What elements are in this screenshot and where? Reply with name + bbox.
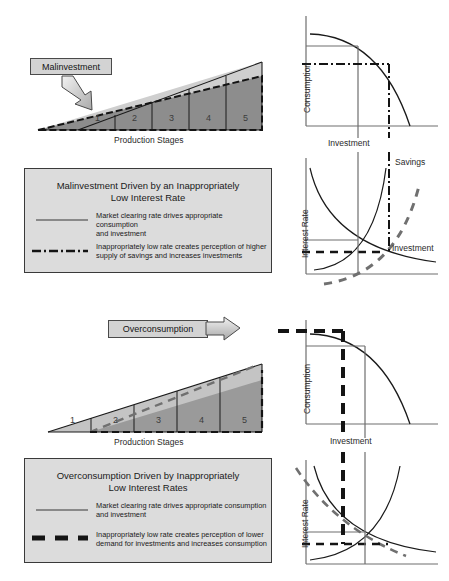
malinvestment-callout: Malinvestment (30, 58, 112, 75)
bottom-legend-entry-2: Inappropriately low rate creates percept… (96, 530, 272, 548)
bottom-stage-number-5: 5 (242, 415, 247, 425)
bottom-investment-demand-curve-solid (314, 466, 436, 552)
top-legend-swatch-dashdot (32, 247, 88, 255)
bottom-ppf-ylabel: Consumption (302, 364, 312, 414)
arrow-shape (206, 317, 240, 340)
bottom-legend-title: Overconsumption Driven by Inappropriatel… (24, 470, 272, 494)
top-legend-entry-2: Inappropriately low rate creates percept… (96, 242, 272, 260)
bottom-legend-entry-2-line1: Inappropriately low rate creates percept… (96, 530, 264, 539)
top-ppf-xlabel: Investment (328, 138, 370, 148)
bottom-legend-entry-2-line2: demand for investments and increases con… (96, 539, 267, 548)
overconsumption-callout-arrow (206, 316, 242, 342)
top-legend-entry-1-line1: Market clearing rate drives appropriate … (96, 211, 223, 229)
top-production-stages-label: Production Stages (114, 135, 183, 145)
malinvestment-callout-arrow (60, 74, 100, 116)
top-legend-entry-1-line2: and investment (96, 229, 146, 238)
production-possibility-frontier (310, 34, 410, 126)
bottom-ppf-xlabel: Investment (330, 436, 372, 446)
top-stage-number-5: 5 (243, 113, 248, 123)
investment-curve-label: Investment (392, 243, 434, 253)
bottom-loanable-funds-chart (288, 452, 443, 578)
bottom-legend-swatch-heavydash (32, 533, 88, 543)
investment-demand-curve-dashed (324, 182, 420, 284)
top-legend-entry-2-line2: supply of savings and increases investme… (96, 251, 242, 260)
bottom-stage-number-2: 2 (113, 415, 118, 425)
top-legend-entry-1: Market clearing rate drives appropriate … (96, 211, 266, 239)
top-stage-number-3: 3 (169, 113, 174, 123)
bottom-production-stages-label: Production Stages (114, 437, 183, 447)
top-ppf-ylabel: Consumption (302, 63, 312, 113)
bottom-legend-entry-1-line2: and investment (96, 510, 146, 519)
bottom-stage-number-4: 4 (199, 415, 204, 425)
bottom-stage-number-1: 1 (70, 415, 75, 425)
bottom-legend-swatch-solid (36, 506, 88, 514)
bottom-legend-title-line2: Low Interest Rates (108, 482, 187, 493)
top-legend-title-line2: Low Interest Rate (111, 192, 185, 203)
bottom-legend-entry-1-line1: Market clearing rate drives appropriate … (96, 501, 266, 510)
arrow-shape (62, 76, 92, 110)
bottom-production-possibility-frontier (310, 334, 410, 424)
bottom-stage-number-3: 3 (156, 415, 161, 425)
top-legend-swatch-solid (36, 216, 88, 224)
top-legend-title: Malinvestment Driven by an Inappropriate… (24, 180, 272, 204)
bottom-production-triangle (30, 330, 270, 440)
savings-curve-label: Savings (395, 157, 425, 167)
bottom-legend-entry-1: Market clearing rate drives appropriate … (96, 501, 268, 519)
bottom-lf-ylabel: Interest Rate (300, 499, 310, 548)
bottom-savings-supply-curve-solid (310, 466, 400, 560)
top-stage-number-2: 2 (132, 113, 137, 123)
top-legend-entry-2-line1: Inappropriately low rate creates percept… (96, 242, 267, 251)
top-lf-ylabel: Interest Rate (300, 209, 310, 258)
top-legend-title-line1: Malinvestment Driven by an Inappropriate… (57, 180, 240, 191)
savings-supply-curve-solid (314, 168, 386, 270)
overconsumption-callout: Overconsumption (108, 320, 208, 338)
top-loanable-funds-chart (288, 152, 443, 286)
top-stage-number-4: 4 (206, 113, 211, 123)
bottom-legend-title-line1: Overconsumption Driven by Inappropriatel… (57, 470, 240, 481)
